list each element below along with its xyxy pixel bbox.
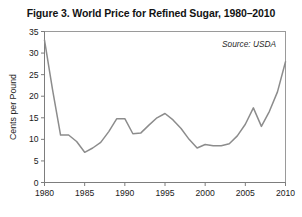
y-tick-label: 35 (29, 27, 39, 37)
x-axis-ticks (45, 183, 286, 187)
y-tick-label: 5 (34, 156, 39, 166)
plot-area-border (45, 32, 286, 183)
x-tick-label: 1980 (35, 188, 54, 198)
x-axis-tick-labels: 1980198519901995200020052010 (35, 188, 295, 198)
y-tick-label: 25 (29, 70, 39, 80)
chart-plot: 05101520253035 1980198519901995200020052… (0, 0, 302, 217)
y-axis-ticks (41, 32, 45, 183)
y-tick-label: 30 (29, 48, 39, 58)
x-tick-label: 2010 (276, 188, 295, 198)
y-tick-label: 15 (29, 113, 39, 123)
chart-figure: Figure 3. World Price for Refined Sugar,… (0, 0, 302, 217)
x-tick-label: 1985 (75, 188, 94, 198)
x-tick-label: 1990 (115, 188, 134, 198)
y-tick-label: 0 (34, 178, 39, 188)
y-tick-label: 10 (29, 134, 39, 144)
x-tick-label: 1995 (155, 188, 174, 198)
x-tick-label: 2000 (196, 188, 215, 198)
y-axis-label: Cents per Pound (8, 74, 18, 140)
y-tick-label: 20 (29, 91, 39, 101)
x-tick-label: 2005 (236, 188, 255, 198)
source-annotation: Source: USDA (222, 39, 276, 49)
y-axis-tick-labels: 05101520253035 (29, 27, 39, 188)
